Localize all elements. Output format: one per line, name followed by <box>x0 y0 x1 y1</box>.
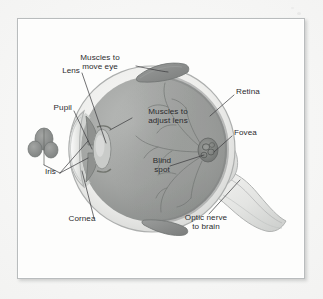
label-cornea: Cornea <box>60 214 104 223</box>
label-iris: Iris <box>18 167 56 176</box>
figure-canvas: Muscles to move eye Lens Pupil Iris Corn… <box>0 0 323 299</box>
iris-detail-illustration <box>28 128 58 165</box>
figure-plate: Muscles to move eye Lens Pupil Iris Corn… <box>17 18 305 279</box>
scan-speck <box>291 7 294 9</box>
label-optic-nerve-to-brain: Optic nerve to brain <box>170 213 242 231</box>
eye-anatomy-illustration <box>18 19 304 278</box>
label-blind-spot: Blind spot <box>142 156 182 174</box>
optic-disc-blind-spot <box>198 138 218 162</box>
scan-speck <box>297 12 301 15</box>
figure-plate-inner: Muscles to move eye Lens Pupil Iris Corn… <box>18 19 304 278</box>
label-muscles-to-adjust-lens: Muscles to adjust lens <box>134 107 202 125</box>
lens <box>93 129 111 169</box>
label-retina: Retina <box>236 87 286 96</box>
label-pupil: Pupil <box>22 103 72 112</box>
label-lens: Lens <box>32 66 80 75</box>
label-fovea: Fovea <box>234 128 282 137</box>
